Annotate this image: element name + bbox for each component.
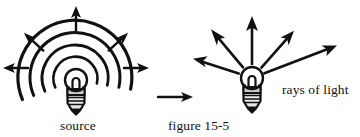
- bulb-neck: [245, 85, 259, 88]
- figure-caption: figure 15-5: [168, 118, 230, 133]
- bulb-neck: [69, 87, 83, 90]
- figure-15-5-illustration: source: [0, 0, 360, 137]
- rays-of-light-label: rays of light: [282, 82, 349, 97]
- source-label: source: [60, 118, 96, 133]
- figure-canvas: source: [0, 0, 360, 137]
- figure-background: [0, 0, 360, 137]
